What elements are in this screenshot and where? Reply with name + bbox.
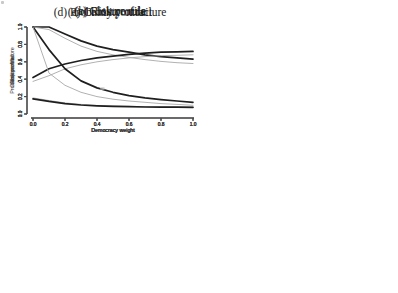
figure-2x2-line-charts: (a) Closure rule 0.00.20.40.60.81.0Democ… (0, 0, 398, 293)
probability-of-failure-plot: 0.00.20.40.60.81.0Democracy weight0.00.2… (9, 23, 197, 133)
svg-text:0.8: 0.8 (158, 122, 165, 127)
svg-text:0.4: 0.4 (18, 76, 23, 83)
svg-text:0.4: 0.4 (94, 122, 101, 127)
svg-text:0.6: 0.6 (18, 58, 23, 65)
panel-d-title: (d) Probability of failure (54, 6, 167, 19)
svg-text:1.0: 1.0 (18, 23, 23, 30)
svg-text:0.6: 0.6 (126, 122, 133, 127)
panel-probability-of-failure: (d) Probability of failure 0.00.20.40.60… (0, 0, 199, 147)
svg-text:0.2: 0.2 (62, 122, 69, 127)
svg-text:0.0: 0.0 (30, 122, 37, 127)
svg-text:0.2: 0.2 (18, 93, 23, 100)
svg-text:Democracy weight: Democracy weight (91, 127, 135, 133)
svg-text:1.0: 1.0 (190, 122, 197, 127)
svg-text:0.8: 0.8 (18, 41, 23, 48)
svg-text:Probability of failure: Probability of failure (9, 47, 15, 94)
svg-text:0.0: 0.0 (18, 110, 23, 117)
probability-of-failure-chart: (d) Probability of failure 0.00.20.40.60… (0, 0, 199, 147)
